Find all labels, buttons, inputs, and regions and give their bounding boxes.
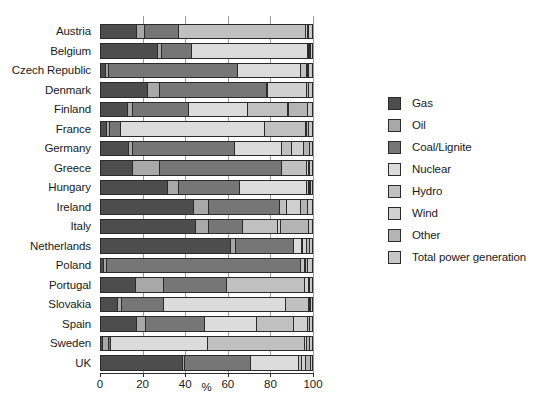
category-label: Sweden: [0, 334, 95, 354]
bar-segment-hydro: [282, 142, 291, 156]
stacked-bar: [100, 43, 313, 59]
bar-segment-total-power-generation: [310, 161, 312, 175]
stacked-bar: [100, 238, 313, 254]
category-label: Portugal: [0, 276, 95, 296]
category-label: Finland: [0, 100, 95, 120]
bar-segment-total-power-generation: [311, 44, 312, 58]
stacked-bar: [100, 82, 313, 98]
bar-segment-total-power-generation: [309, 122, 312, 136]
legend-item: Hydro: [388, 180, 548, 202]
bar-segment-hydro: [248, 103, 288, 117]
stacked-bar: [100, 180, 313, 196]
bar-segment-nuclear: [235, 142, 282, 156]
bar-segment-gas: [101, 220, 196, 234]
bar-segment-hydro: [286, 298, 309, 312]
legend-label: Nuclear: [412, 163, 451, 175]
bar-segment-oil: [196, 220, 209, 234]
category-label: Belgium: [0, 42, 95, 62]
legend-swatch-icon: [388, 229, 401, 242]
bar-segment-gas: [101, 142, 129, 156]
bar-segment-hydro: [208, 337, 305, 351]
bar-segment-hydro: [265, 122, 306, 136]
legend-swatch-icon: [388, 141, 401, 154]
legend-item: Total power generation: [388, 246, 548, 268]
category-label: Greece: [0, 159, 95, 179]
x-axis-tick: [228, 373, 229, 377]
bar-segment-hydro: [243, 220, 278, 234]
bar-segment-hydro: [227, 278, 305, 292]
plot-area: AustriaBelgiumCzech RepublicDenmarkFinla…: [0, 0, 340, 396]
bar-row: [100, 178, 313, 198]
category-label: Netherlands: [0, 237, 95, 257]
stacked-bar: [100, 63, 313, 79]
bar-segment-total-power-generation: [311, 181, 312, 195]
bar-segment-oil: [137, 25, 145, 39]
bar-segment-nuclear: [192, 44, 308, 58]
bar-segment-total-power-generation: [309, 64, 312, 78]
bar-segment-nuclear: [189, 103, 248, 117]
bar-segment-coal-lignite: [179, 181, 240, 195]
legend-swatch-icon: [388, 97, 401, 110]
bar-row: [100, 42, 313, 62]
bar-row: [100, 100, 313, 120]
bar-segment-gas: [101, 239, 231, 253]
stacked-bar: [100, 316, 313, 332]
bar-segment-total-power-generation: [310, 337, 312, 351]
bar-segment-oil: [194, 200, 209, 214]
category-label: Poland: [0, 256, 95, 276]
bar-segment-oil: [148, 83, 160, 97]
bar-row: [100, 237, 313, 257]
bar-segment-gas: [101, 25, 137, 39]
category-label: Hungary: [0, 178, 95, 198]
bar-segment-gas: [101, 161, 133, 175]
legend-item: Wind: [388, 202, 548, 224]
bar-segment-other: [289, 103, 308, 117]
x-axis-tick-label: 100: [303, 378, 322, 390]
x-axis-tick: [100, 373, 101, 377]
bar-segment-oil: [137, 317, 146, 331]
legend-label: Oil: [412, 119, 426, 131]
bar-segment-total-power-generation: [308, 259, 312, 273]
x-axis-tick: [313, 373, 314, 377]
x-axis-tick-label: 20: [136, 378, 149, 390]
bar-row: [100, 334, 313, 354]
bar-segment-total-power-generation: [310, 317, 312, 331]
stacked-bar: [100, 102, 313, 118]
stacked-bar: [100, 199, 313, 215]
bar-segment-coal-lignite: [160, 83, 267, 97]
x-axis-tick: [185, 373, 186, 377]
bar-segment-coal-lignite: [109, 64, 237, 78]
bar-segment-total-power-generation: [311, 356, 312, 370]
bar-segment-nuclear: [121, 122, 265, 136]
bar-segment-nuclear: [240, 181, 307, 195]
bar-segment-gas: [101, 83, 148, 97]
bar-segment-nuclear: [111, 337, 208, 351]
bar-segment-coal-lignite: [209, 220, 244, 234]
legend-item: Gas: [388, 92, 548, 114]
bar-segment-gas: [101, 356, 183, 370]
bar-segment-gas: [101, 181, 168, 195]
bar-segment-gas: [101, 44, 158, 58]
bar-row: [100, 120, 313, 140]
bar-segment-hydro: [257, 317, 294, 331]
bar-segment-nuclear: [294, 239, 302, 253]
bar-segment-oil: [133, 161, 160, 175]
bar-row: [100, 139, 313, 159]
stacked-bar: [100, 336, 313, 352]
stacked-bar: [100, 277, 313, 293]
category-label: Denmark: [0, 81, 95, 101]
bar-segment-hydro: [179, 25, 306, 39]
bar-row: [100, 22, 313, 42]
x-axis-line: [100, 373, 313, 374]
bar-row: [100, 295, 313, 315]
bar-segment-total-power-generation: [310, 142, 312, 156]
stacked-bar: [100, 24, 313, 40]
category-label: UK: [0, 354, 95, 374]
legend: GasOilCoal/LigniteNuclearHydroWindOtherT…: [388, 92, 548, 268]
bar-row: [100, 217, 313, 237]
bar-segment-coal-lignite: [146, 317, 205, 331]
bar-row: [100, 198, 313, 218]
stacked-bar: [100, 258, 313, 274]
bar-row: [100, 61, 313, 81]
bar-segment-wind: [287, 200, 302, 214]
